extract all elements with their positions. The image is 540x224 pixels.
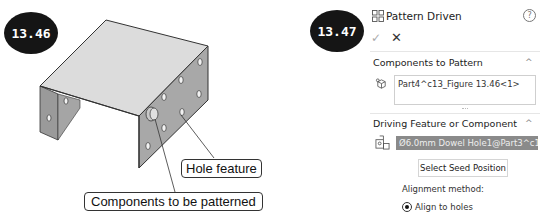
- callout-hole-feature: Hole feature: [181, 159, 262, 178]
- pattern-driven-property-manager: Pattern Driven ? ✓ ✕ Components to Patte…: [368, 0, 540, 224]
- radio-selected-icon[interactable]: [402, 202, 412, 212]
- help-icon[interactable]: ?: [523, 9, 536, 22]
- callout-label: Components to be patterned: [91, 194, 256, 209]
- callout-components-to-be-patterned: Components to be patterned: [84, 192, 263, 211]
- driving-feature-icon: [375, 135, 390, 150]
- list-resize-handle[interactable]: [462, 108, 468, 112]
- list-item-component[interactable]: Part4^c13_Figure 13.46<1>: [398, 79, 532, 89]
- divider: [370, 51, 540, 52]
- collapse-chevron-icon[interactable]: ^: [525, 57, 533, 67]
- panel-title: Pattern Driven: [386, 10, 462, 22]
- align-to-holes-radio[interactable]: Align to holes: [402, 202, 473, 212]
- cancel-button[interactable]: ✕: [391, 30, 402, 45]
- figure-number: 13.47: [317, 24, 356, 39]
- radio-label: Align to holes: [415, 202, 473, 212]
- section-title-driving-feature[interactable]: Driving Feature or Component: [373, 118, 517, 129]
- pattern-driven-icon: [372, 10, 384, 22]
- components-list[interactable]: Part4^c13_Figure 13.46<1>: [394, 75, 536, 105]
- figure-badge-13-47: 13.47: [310, 10, 364, 52]
- section-title-components-to-pattern[interactable]: Components to Pattern: [373, 57, 483, 68]
- select-seed-position-button[interactable]: Select Seed Position: [418, 159, 508, 177]
- bracket-model-illustration: [0, 0, 300, 224]
- callout-label: Hole feature: [186, 161, 257, 176]
- collapse-chevron-icon[interactable]: ^: [525, 118, 533, 128]
- ok-button[interactable]: ✓: [371, 31, 381, 45]
- alignment-method-label: Alignment method:: [402, 184, 484, 194]
- driving-feature-selection[interactable]: Ø6.0mm Dowel Hole1@Part3^c13_F: [396, 136, 538, 150]
- divider: [370, 113, 540, 114]
- component-icon: [375, 78, 388, 91]
